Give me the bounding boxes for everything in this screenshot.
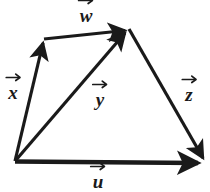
vector-lines-svg [0,0,210,192]
vector-label-z-text: z [185,84,192,105]
vector-label-w-text: w [80,5,93,26]
vector-label-z: z [185,83,192,104]
vector-label-y-text: y [96,89,104,110]
vector-label-u-text: u [93,171,104,192]
vector-arrow-u [15,162,198,164]
vector-label-u: u [93,170,104,191]
vector-arrow-w [44,31,125,40]
vector-label-x: x [8,81,18,102]
vector-arrow-y [16,33,125,160]
vector-label-w: w [80,4,93,25]
vector-diagram: w x y z u [0,0,210,192]
vector-label-x-text: x [8,82,18,103]
vector-label-y: y [96,88,104,109]
